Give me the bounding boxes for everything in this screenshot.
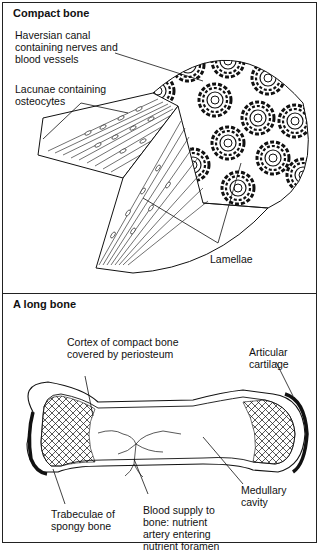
label-line: Blood supply to: [143, 504, 215, 516]
cortex-label: Cortex of compact bonecovered by periost…: [67, 336, 178, 360]
label-line: artery entering: [143, 528, 211, 540]
label-line: Trabeculae of: [51, 508, 115, 520]
articular-cartilage-label: Articularcartilage: [249, 346, 289, 370]
label-line: Haversian canal: [15, 29, 90, 41]
label-line: containing nerves and: [15, 41, 118, 53]
compact-bone-panel: Compact bone: [2, 2, 317, 294]
blood-supply-label: Blood supply tobone: nutrientartery ente…: [143, 504, 219, 550]
label-line: Lacunae containing: [15, 83, 106, 95]
long-bone-panel: A long bone: [2, 293, 317, 543]
label-line: spongy bone: [51, 520, 111, 532]
label-line: nutrient foramen: [143, 540, 219, 550]
lacunae-label: Lacunae containingosteocytes: [15, 83, 106, 107]
lamellae-label: Lamellae: [210, 253, 253, 265]
haversian-canal-label: Haversian canalcontaining nerves andbloo…: [15, 29, 118, 65]
label-line: covered by periosteum: [67, 348, 173, 360]
label-line: Medullary: [241, 484, 287, 496]
label-line: blood vessels: [15, 53, 79, 65]
label-line: Articular: [249, 346, 288, 358]
label-line: bone: nutrient: [143, 516, 207, 528]
label-line: Cortex of compact bone: [67, 336, 178, 348]
label-line: osteocytes: [15, 95, 65, 107]
label-line: cartilage: [249, 358, 289, 370]
medullary-cavity-label: Medullarycavity: [241, 484, 287, 508]
trabeculae-label: Trabeculae ofspongy bone: [51, 508, 115, 532]
label-line: cavity: [241, 496, 268, 508]
